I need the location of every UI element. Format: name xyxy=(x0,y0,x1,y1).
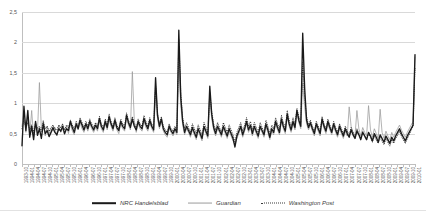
legend-swatch-icon xyxy=(261,201,285,205)
x-axis-tick-label: 2001-01 xyxy=(199,167,204,183)
x-axis-tick-label: 2004-01 xyxy=(272,167,277,183)
legend-item[interactable]: Guardian xyxy=(188,200,241,206)
series-container xyxy=(22,12,415,164)
x-axis-tick-label: 1995-10 xyxy=(72,167,77,183)
x-axis-tick-label: 2008-07 xyxy=(381,167,386,183)
x-axis-tick-label: 2006-10 xyxy=(338,167,343,183)
x-axis-tick-label: 1999-07 xyxy=(163,167,168,183)
x-axis-tick-label: 1998-07 xyxy=(139,167,144,183)
x-axis-tick-label: 2002-01 xyxy=(224,167,229,183)
y-axis-tick-label: 1,5 xyxy=(10,70,18,76)
legend-label: NRC Handelsblad xyxy=(120,200,168,206)
x-axis-tick-label: 2005-07 xyxy=(308,167,313,183)
x-axis-tick-label: 2009-04 xyxy=(399,167,404,183)
x-axis-tick-label: 1994-10 xyxy=(48,167,53,183)
legend-swatch-icon xyxy=(188,201,212,205)
legend-item[interactable]: Washington Post xyxy=(261,200,334,206)
x-axis-tick-label: 2007-07 xyxy=(357,167,362,183)
legend-item[interactable]: NRC Handelsblad xyxy=(92,200,168,206)
x-axis-tick-label: 2008-10 xyxy=(387,167,392,183)
x-axis-tick-label: 1998-01 xyxy=(127,167,132,183)
legend-label: Washington Post xyxy=(289,200,334,206)
y-axis-tick-label: 2,5 xyxy=(10,9,18,15)
x-axis-tick-label: 1999-04 xyxy=(157,167,162,183)
x-axis-tick-label: 2002-04 xyxy=(230,167,235,183)
x-axis-tick-label: 1994-01 xyxy=(30,167,35,183)
x-axis-tick-label: 2007-04 xyxy=(350,167,355,183)
x-axis-tick-label: 1996-07 xyxy=(91,167,96,183)
y-axis-tick-label: 0,5 xyxy=(10,131,18,137)
x-axis-tick-label: 2001-04 xyxy=(205,167,210,183)
x-axis-tick-label: 2003-07 xyxy=(260,167,265,183)
x-axis-tick-label: 2009-07 xyxy=(405,167,410,183)
x-axis-tick-label: 2004-07 xyxy=(284,167,289,183)
x-axis-tick-label: 1997-04 xyxy=(109,167,114,183)
y-axis-tick-label: 0 xyxy=(14,161,17,167)
line-chart: 00,511,522,5 1993-101994-011994-041994-0… xyxy=(0,0,426,213)
x-axis-tick-label: 2000-10 xyxy=(193,167,198,183)
x-axis-tick-label: 2003-04 xyxy=(254,167,259,183)
y-axis-tick-label: 2 xyxy=(14,39,17,45)
legend-label: Guardian xyxy=(216,200,241,206)
x-axis-tick-label: 1998-04 xyxy=(133,167,138,183)
x-axis-tick-label: 1996-10 xyxy=(97,167,102,183)
x-axis-tick-label: 2005-10 xyxy=(314,167,319,183)
x-axis-tick-label: 1994-07 xyxy=(42,167,47,183)
x-axis-tick-label: 1994-04 xyxy=(36,167,41,183)
x-axis-tick-label: 2006-01 xyxy=(320,167,325,183)
x-axis-tick-label: 2004-10 xyxy=(290,167,295,183)
x-axis-tick-label: 1993-10 xyxy=(24,167,29,183)
x-axis-tick-label: 1996-01 xyxy=(78,167,83,183)
x-axis-tick-label: 2000-01 xyxy=(175,167,180,183)
x-axis-tick-label: 1999-01 xyxy=(151,167,156,183)
plot-area xyxy=(22,12,415,164)
x-axis-tick-label: 1999-10 xyxy=(169,167,174,183)
bottom-divider xyxy=(0,210,426,211)
x-axis-tick-label: 2002-07 xyxy=(236,167,241,183)
x-axis-tick-label: 2005-01 xyxy=(296,167,301,183)
x-axis-tick-label: 2001-10 xyxy=(217,167,222,183)
x-axis-tick-label: 2010-01 xyxy=(417,167,422,183)
x-axis-tick-label: 1998-10 xyxy=(145,167,150,183)
x-axis-tick-label: 2005-04 xyxy=(302,167,307,183)
x-axis-tick-label: 2009-10 xyxy=(411,167,416,183)
x-axis-tick-label: 2008-01 xyxy=(369,167,374,183)
x-axis-tick-label: 1995-07 xyxy=(66,167,71,183)
x-axis-tick-label: 2003-01 xyxy=(248,167,253,183)
x-axis-tick-label: 1997-10 xyxy=(121,167,126,183)
x-axis-tick-label: 1996-04 xyxy=(84,167,89,183)
x-axis-tick-label: 2008-04 xyxy=(375,167,380,183)
x-axis-tick-label: 1997-01 xyxy=(103,167,108,183)
x-axis-tick-label: 2000-07 xyxy=(187,167,192,183)
x-axis-tick-label: 1997-07 xyxy=(115,167,120,183)
x-axis-tick-label: 2003-10 xyxy=(266,167,271,183)
x-axis-tick-label: 1995-04 xyxy=(60,167,65,183)
x-axis-tick-label: 2006-04 xyxy=(326,167,331,183)
x-axis-tick-label: 2002-10 xyxy=(242,167,247,183)
chart-legend: NRC HandelsbladGuardianWashington Post xyxy=(0,196,426,210)
x-axis-tick-label: 2000-04 xyxy=(181,167,186,183)
x-axis-tick-label: 2009-01 xyxy=(393,167,398,183)
x-axis-tick-label: 1995-01 xyxy=(54,167,59,183)
y-axis-tick-label: 1 xyxy=(14,100,17,106)
y-axis-labels: 00,511,522,5 xyxy=(0,0,20,213)
x-axis-tick-label: 2007-10 xyxy=(363,167,368,183)
series-line xyxy=(22,30,415,147)
x-axis-tick-label: 2001-07 xyxy=(211,167,216,183)
x-axis-tick-label: 2004-04 xyxy=(278,167,283,183)
x-axis-tick-label: 2006-07 xyxy=(332,167,337,183)
legend-swatch-icon xyxy=(92,201,116,205)
x-axis-labels: 1993-101994-011994-041994-071994-101995-… xyxy=(22,167,415,195)
x-axis-tick-label: 2007-01 xyxy=(344,167,349,183)
